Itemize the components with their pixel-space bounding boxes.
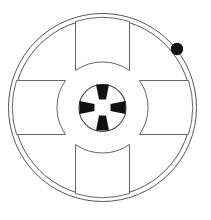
segment-left <box>12 81 65 135</box>
segment-right <box>140 81 193 135</box>
segment-top <box>76 17 130 70</box>
segment-bottom <box>76 145 130 198</box>
rotor-wheel-svg <box>0 0 211 220</box>
rim-marker-dot <box>171 43 183 55</box>
rotor-wheel-diagram <box>0 0 211 220</box>
